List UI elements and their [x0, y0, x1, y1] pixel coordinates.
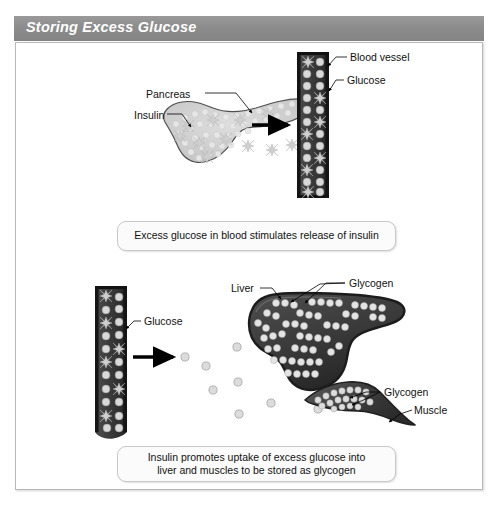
label-muscle: Muscle — [414, 404, 447, 416]
diagram-artwork — [0, 0, 500, 509]
blood-vessel-bottom — [95, 286, 127, 439]
caption-text-bottom: Insulin promotes uptake of excess glucos… — [138, 451, 376, 478]
figure-root: Storing Excess Glucose — [0, 0, 500, 509]
caption-box-bottom: Insulin promotes uptake of excess glucos… — [117, 446, 396, 482]
glucose-leader-line-bottom — [126, 321, 141, 329]
caption-bottom-line1: Insulin promotes uptake of excess glucos… — [148, 451, 366, 463]
caption-bottom-line2: liver and muscles to be stored as glycog… — [157, 464, 355, 476]
label-blood-vessel: Blood vessel — [350, 51, 410, 63]
label-insulin: Insulin — [134, 109, 164, 121]
blood-vessel-top — [297, 52, 329, 198]
label-liver: Liver — [231, 282, 254, 294]
caption-text-top: Excess glucose in blood stimulates relea… — [124, 229, 389, 243]
insulin-in-transit-group — [242, 139, 298, 156]
label-glycogen-liver: Glycogen — [349, 277, 393, 289]
liver-organ — [249, 293, 404, 390]
caption-box-top: Excess glucose in blood stimulates relea… — [117, 221, 396, 251]
label-glucose-top: Glucose — [347, 74, 386, 86]
glucose-leader-line-top — [329, 80, 344, 91]
blood-vessel-leader-line — [328, 57, 347, 66]
pancreas-organ — [164, 99, 312, 163]
label-glucose-bottom: Glucose — [144, 315, 183, 327]
label-pancreas: Pancreas — [146, 88, 190, 100]
label-glycogen-muscle: Glycogen — [384, 386, 428, 398]
